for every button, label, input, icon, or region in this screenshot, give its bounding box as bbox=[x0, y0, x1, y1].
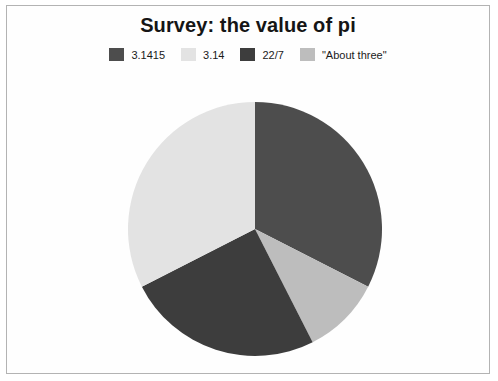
legend-swatch-icon-2 bbox=[240, 48, 255, 61]
legend-swatch-icon-3 bbox=[300, 48, 315, 61]
chart-legend: 3.1415 3.14 22/7 "About three" bbox=[7, 48, 489, 61]
legend-label-2: 22/7 bbox=[262, 49, 283, 61]
pie-chart-area bbox=[7, 6, 491, 375]
page-title: Survey: the value of pi bbox=[7, 14, 489, 37]
legend-item-0[interactable]: 3.1415 bbox=[109, 48, 165, 61]
legend-label-0: 3.1415 bbox=[131, 49, 165, 61]
legend-label-1: 3.14 bbox=[203, 49, 224, 61]
legend-label-3: "About three" bbox=[322, 49, 387, 61]
legend-swatch-icon-1 bbox=[181, 48, 196, 61]
pie-chart[interactable] bbox=[125, 99, 385, 359]
legend-swatch-icon-0 bbox=[109, 48, 124, 61]
legend-item-2[interactable]: 22/7 bbox=[240, 48, 283, 61]
chart-frame: Survey: the value of pi 3.1415 3.14 22/7… bbox=[6, 5, 490, 374]
legend-item-1[interactable]: 3.14 bbox=[181, 48, 224, 61]
pie-slices bbox=[128, 102, 382, 356]
legend-item-3[interactable]: "About three" bbox=[300, 48, 387, 61]
